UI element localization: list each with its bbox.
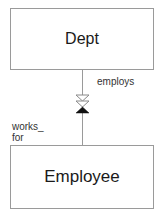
entity-employee-label: Employee	[44, 167, 120, 187]
hollow-triangle-marker-icon	[76, 95, 89, 107]
entity-employee[interactable]: Employee	[10, 145, 154, 209]
filled-triangle-marker-icon	[76, 107, 89, 113]
role-label-works-for-line2: for	[12, 132, 52, 143]
role-label-employs: employs	[97, 76, 134, 87]
role-label-works-for: works_ for	[12, 121, 52, 143]
role-label-works-for-line1: works_	[12, 121, 52, 132]
